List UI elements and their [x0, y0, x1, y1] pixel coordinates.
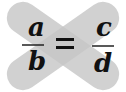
numerator-c: c: [96, 12, 112, 42]
equals-top-bar: [56, 38, 74, 41]
denominator-b: b: [28, 46, 46, 76]
numerator-a: a: [28, 12, 45, 42]
equals-bottom-bar: [56, 46, 74, 49]
denominator-d: d: [94, 48, 112, 78]
cross-multiplication-diagram: a b c d: [0, 0, 126, 92]
